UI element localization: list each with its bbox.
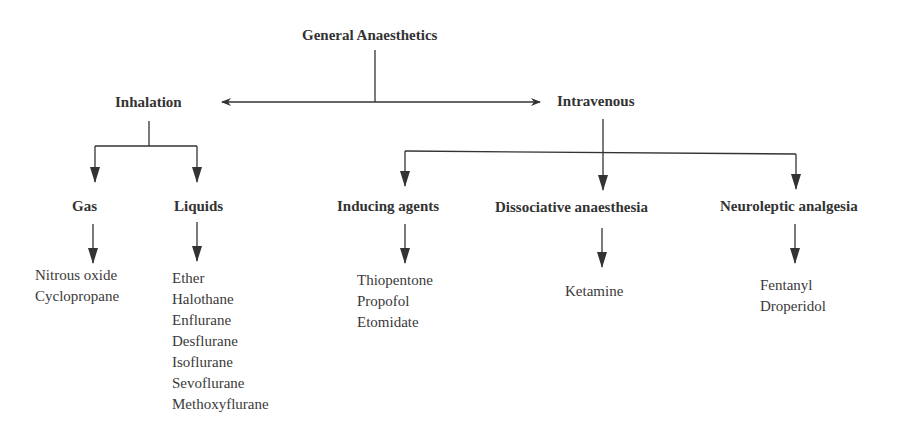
subcategory-dissociative-anaesthesia: Dissociative anaesthesia bbox=[495, 199, 648, 216]
subcategory-neuroleptic-analgesia: Neuroleptic analgesia bbox=[720, 198, 858, 215]
drug-item: Methoxyflurane bbox=[172, 394, 269, 415]
gas-drug-list: Nitrous oxide Cyclopropane bbox=[35, 265, 119, 307]
drug-item: Nitrous oxide bbox=[35, 265, 119, 286]
subcategory-liquids: Liquids bbox=[174, 198, 223, 215]
neuroleptic-drug-list: Fentanyl Droperidol bbox=[760, 275, 826, 317]
inducing-agents-drug-list: Thiopentone Propofol Etomidate bbox=[357, 270, 433, 333]
drug-item: Sevoflurane bbox=[172, 373, 269, 394]
drug-item: Droperidol bbox=[760, 296, 826, 317]
liquids-drug-list: Ether Halothane Enflurane Desflurane Iso… bbox=[172, 268, 269, 415]
drug-item: Etomidate bbox=[357, 312, 433, 333]
connector-lines bbox=[0, 0, 921, 443]
drug-item: Desflurane bbox=[172, 331, 269, 352]
drug-item: Enflurane bbox=[172, 310, 269, 331]
dissociative-drug-list: Ketamine bbox=[565, 281, 623, 302]
category-intravenous: Intravenous bbox=[557, 93, 635, 110]
subcategory-gas: Gas bbox=[72, 198, 97, 215]
drug-item: Propofol bbox=[357, 291, 433, 312]
drug-item: Isoflurane bbox=[172, 352, 269, 373]
drug-item: Ether bbox=[172, 268, 269, 289]
drug-item: Fentanyl bbox=[760, 275, 826, 296]
drug-item: Halothane bbox=[172, 289, 269, 310]
drug-item: Ketamine bbox=[565, 281, 623, 302]
root-node-general-anaesthetics: General Anaesthetics bbox=[302, 27, 437, 44]
category-inhalation: Inhalation bbox=[115, 94, 182, 111]
drug-item: Thiopentone bbox=[357, 270, 433, 291]
drug-item: Cyclopropane bbox=[35, 286, 119, 307]
subcategory-inducing-agents: Inducing agents bbox=[337, 198, 439, 215]
